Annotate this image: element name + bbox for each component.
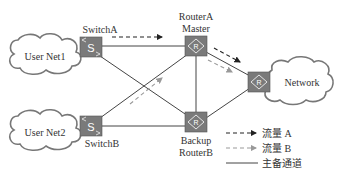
router-b-label-1: Backup [176, 135, 216, 146]
legend-flow-b: 流量 B [262, 143, 291, 154]
router-a-icon[interactable]: R [185, 36, 207, 56]
network-label: Network [280, 77, 324, 88]
legend-flow-a: 流量 A [262, 128, 292, 139]
legend-symbols [226, 133, 258, 163]
legend-main-backup: 主备通道 [262, 158, 302, 169]
svg-text:R: R [193, 119, 198, 126]
user-net1-label: User Net1 [20, 51, 70, 62]
svg-text:R: R [256, 79, 261, 86]
flow-a-arrows [112, 37, 240, 62]
svg-text:S: S [87, 42, 94, 54]
switch-b-icon[interactable]: S [80, 116, 102, 136]
switch-a-icon[interactable]: S [80, 37, 102, 57]
network-router-icon[interactable]: R [248, 72, 270, 92]
svg-text:S: S [87, 121, 94, 133]
switch-a-label: SwitchA [80, 24, 120, 35]
user-net2-label: User Net2 [20, 127, 70, 138]
router-a-label-2: Master [176, 23, 216, 34]
svg-text:R: R [193, 43, 198, 50]
links [100, 46, 250, 126]
router-b-icon[interactable]: R [185, 112, 207, 132]
flow-b-arrows [130, 60, 232, 104]
router-b-label-2: RouterB [176, 147, 216, 158]
router-a-label-1: RouterA [176, 11, 216, 22]
switch-b-label: SwitchB [82, 138, 122, 149]
